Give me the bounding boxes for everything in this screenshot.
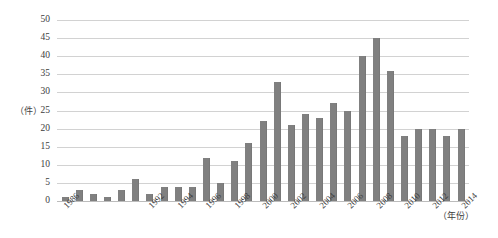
- bar-slot: [397, 20, 411, 201]
- bar-2004[interactable]: [316, 118, 323, 201]
- bar-slot: [171, 20, 185, 201]
- y-tick-label-20: 20: [41, 124, 51, 134]
- x-axis-ticks: 1986199219941996199820002002200420062008…: [57, 201, 469, 238]
- bar-slot: [327, 20, 341, 201]
- bar-2005[interactable]: [330, 103, 337, 201]
- bar-slot: [129, 20, 143, 201]
- y-tick-label-10: 10: [41, 160, 51, 170]
- bar-2009[interactable]: [387, 71, 394, 201]
- bar-slot: [355, 20, 369, 201]
- bar-slot: [228, 20, 242, 201]
- bar-slot: [440, 20, 454, 201]
- bar-2006[interactable]: [344, 111, 351, 202]
- y-tick-label-40: 40: [41, 51, 51, 61]
- bar-slot: [199, 20, 213, 201]
- bar-2002[interactable]: [288, 125, 295, 201]
- bar-slot: [270, 20, 284, 201]
- bar-slot: [86, 20, 100, 201]
- bar-slot: [313, 20, 327, 201]
- y-tick-label-50: 50: [41, 15, 51, 25]
- bar-slot: [185, 20, 199, 201]
- bar-2014[interactable]: [458, 129, 465, 201]
- bar-2001[interactable]: [274, 82, 281, 201]
- bar-slot: [383, 20, 397, 201]
- bar-slot: [426, 20, 440, 201]
- bar-slot: [412, 20, 426, 201]
- bar-slot: [143, 20, 157, 201]
- bar-1990[interactable]: [118, 190, 125, 201]
- bar-slot: [284, 20, 298, 201]
- bar-slot: [214, 20, 228, 201]
- bar-slot: [58, 20, 72, 201]
- bar-2008[interactable]: [373, 38, 380, 201]
- bar-slot: [341, 20, 355, 201]
- y-axis-ticks: 50454035302520151050: [0, 20, 57, 201]
- bar-slot: [100, 20, 114, 201]
- bar-2012[interactable]: [429, 129, 436, 201]
- bar-slot: [298, 20, 312, 201]
- x-axis-title: （年份）: [438, 209, 474, 222]
- bar-slot: [242, 20, 256, 201]
- y-tick-label-25: 25: [41, 106, 51, 116]
- bar-slot: [369, 20, 383, 201]
- bar-2010[interactable]: [401, 136, 408, 201]
- y-tick-label-35: 35: [41, 70, 51, 80]
- bar-slot: [256, 20, 270, 201]
- bar-2011[interactable]: [415, 129, 422, 201]
- bar-chart: （件） 50454035302520151050 198619921994199…: [0, 0, 498, 238]
- bar-slot: [72, 20, 86, 201]
- plot-area: [57, 20, 469, 201]
- bar-1998[interactable]: [231, 161, 238, 201]
- y-tick-label-5: 5: [45, 178, 50, 188]
- y-tick-label-0: 0: [45, 196, 50, 206]
- bar-slot: [157, 20, 171, 201]
- y-tick-label-15: 15: [41, 142, 51, 152]
- bar-2007[interactable]: [359, 56, 366, 201]
- bar-2003[interactable]: [302, 114, 309, 201]
- y-tick-label-30: 30: [41, 88, 51, 98]
- bar-1996[interactable]: [203, 158, 210, 201]
- bar-1988[interactable]: [90, 194, 97, 201]
- bar-2000[interactable]: [260, 121, 267, 201]
- bar-series: [57, 20, 469, 201]
- bar-1991[interactable]: [132, 179, 139, 201]
- bar-slot: [454, 20, 468, 201]
- y-tick-label-45: 45: [41, 33, 51, 43]
- bar-slot: [115, 20, 129, 201]
